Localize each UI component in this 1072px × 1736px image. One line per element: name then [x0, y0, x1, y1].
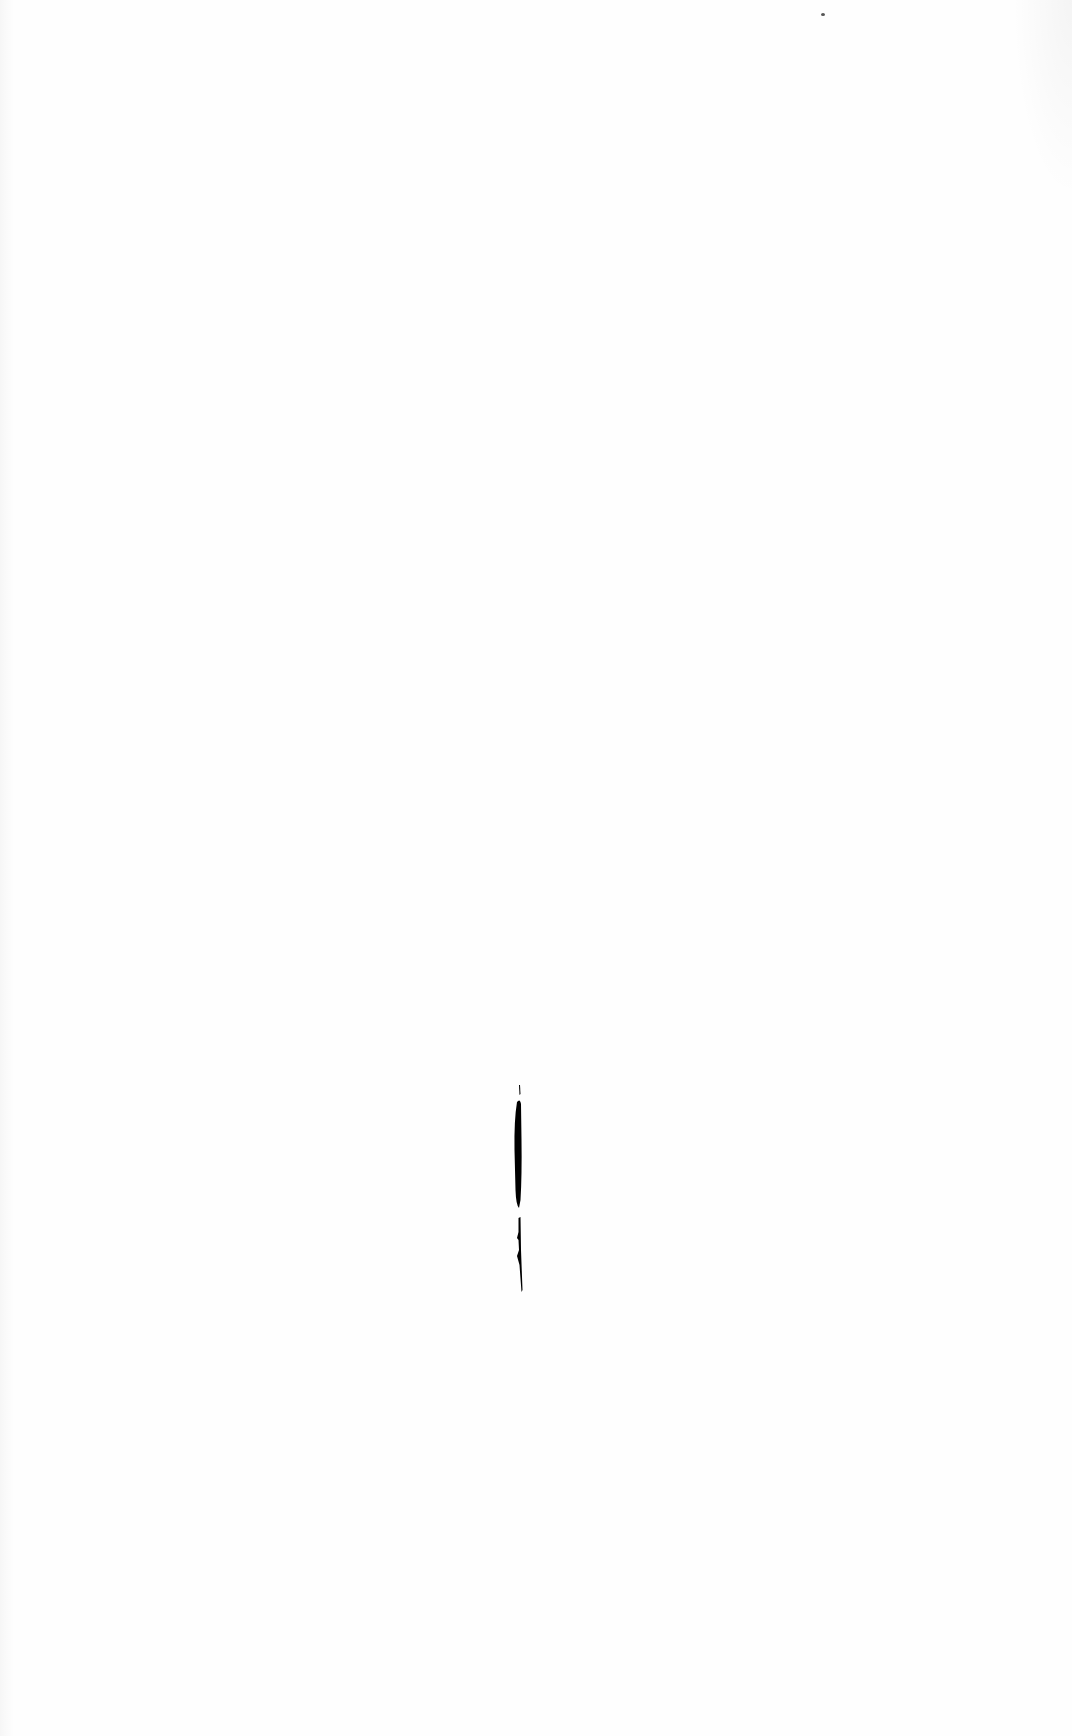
scan-edge-shadow-left [0, 0, 14, 1736]
scan-edge-shadow-right [1012, 0, 1072, 200]
ink-speck [821, 13, 825, 16]
vertical-pen-stroke [500, 1080, 540, 1310]
blank-page [0, 0, 1072, 1736]
